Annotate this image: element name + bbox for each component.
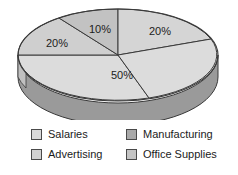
legend-swatch-salaries — [31, 129, 42, 140]
legend-item-office-supplies[interactable]: Office Supplies — [126, 144, 231, 164]
legend-item-manufacturing[interactable]: Manufacturing — [126, 124, 231, 144]
legend-label-office-supplies: Office Supplies — [143, 148, 217, 160]
slice-label-advertising: 20% — [46, 37, 68, 49]
legend-label-advertising: Advertising — [48, 148, 102, 160]
pie-top-face — [18, 9, 218, 101]
pie-chart-svg: 10% 20% 20% 50% — [0, 0, 238, 120]
legend-label-salaries: Salaries — [48, 128, 88, 140]
chart-legend: Salaries Manufacturing Advertising Offic… — [31, 124, 231, 164]
pie-chart-figure: 10% 20% 20% 50% Salaries Manufacturing A… — [0, 0, 238, 175]
legend-swatch-advertising — [31, 149, 42, 160]
slice-label-salaries: 20% — [149, 25, 171, 37]
slice-label-office-supplies: 50% — [111, 69, 133, 81]
legend-swatch-manufacturing — [126, 129, 137, 140]
legend-label-manufacturing: Manufacturing — [143, 128, 213, 140]
slice-label-manufacturing: 10% — [89, 23, 111, 35]
legend-item-salaries[interactable]: Salaries — [31, 124, 126, 144]
legend-swatch-office-supplies — [126, 149, 137, 160]
legend-item-advertising[interactable]: Advertising — [31, 144, 126, 164]
pie-chart-plot: 10% 20% 20% 50% — [0, 0, 238, 120]
